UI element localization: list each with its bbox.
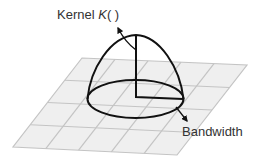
kernel-label: Kernel K( ) <box>57 8 119 21</box>
grid-plane <box>13 58 247 155</box>
bandwidth-label: Bandwidth <box>182 125 243 138</box>
kernel-label-suffix: ( ) <box>107 7 119 22</box>
kernel-symbol: K <box>98 7 107 22</box>
kernel-label-prefix: Kernel <box>57 7 98 22</box>
